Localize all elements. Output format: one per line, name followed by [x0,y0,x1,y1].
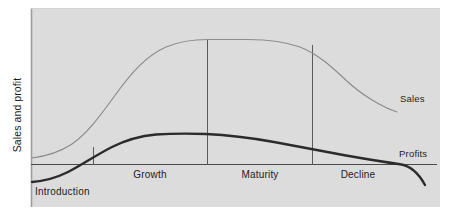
stage-label-growth: Growth [133,169,166,180]
stage-label-decline: Decline [341,169,376,180]
y-axis-title: Sales and profit [11,78,23,153]
product-lifecycle-chart: Sales and profit Introduction Growth Mat… [0,0,457,218]
series-label-sales: Sales [400,93,425,104]
plot-panel-background [31,8,440,207]
stage-label-introduction: Introduction [35,186,90,197]
series-label-profits: Profits [399,148,427,159]
stage-label-maturity: Maturity [241,169,278,180]
chart-canvas: Sales and profit Introduction Growth Mat… [0,0,457,218]
